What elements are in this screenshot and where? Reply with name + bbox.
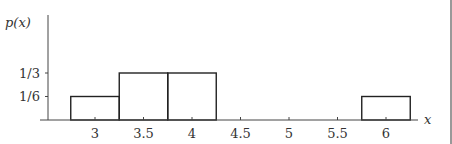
x-axis-label: x <box>424 112 432 127</box>
histogram-bar <box>168 73 217 120</box>
y-tick-label: 1/3 <box>19 66 40 81</box>
x-tick-label: 3.5 <box>133 126 154 141</box>
histogram-bar <box>119 73 168 120</box>
x-tick-label: 6 <box>382 126 390 141</box>
x-tick-label: 4 <box>188 126 196 141</box>
x-tick-label: 3 <box>91 126 99 141</box>
y-axis-ticks: 1/61/3 <box>19 66 48 104</box>
histogram-bars <box>71 73 411 120</box>
histogram-chart: 33.544.555.56 1/61/3 p(x) x <box>0 0 452 144</box>
x-tick-label: 4.5 <box>230 126 251 141</box>
x-tick-label: 5.5 <box>327 126 348 141</box>
histogram-bar <box>71 96 120 120</box>
y-axis-label: p(x) <box>5 15 31 30</box>
histogram-bar <box>362 96 411 120</box>
x-tick-label: 5 <box>285 126 293 141</box>
y-tick-label: 1/6 <box>19 89 40 104</box>
